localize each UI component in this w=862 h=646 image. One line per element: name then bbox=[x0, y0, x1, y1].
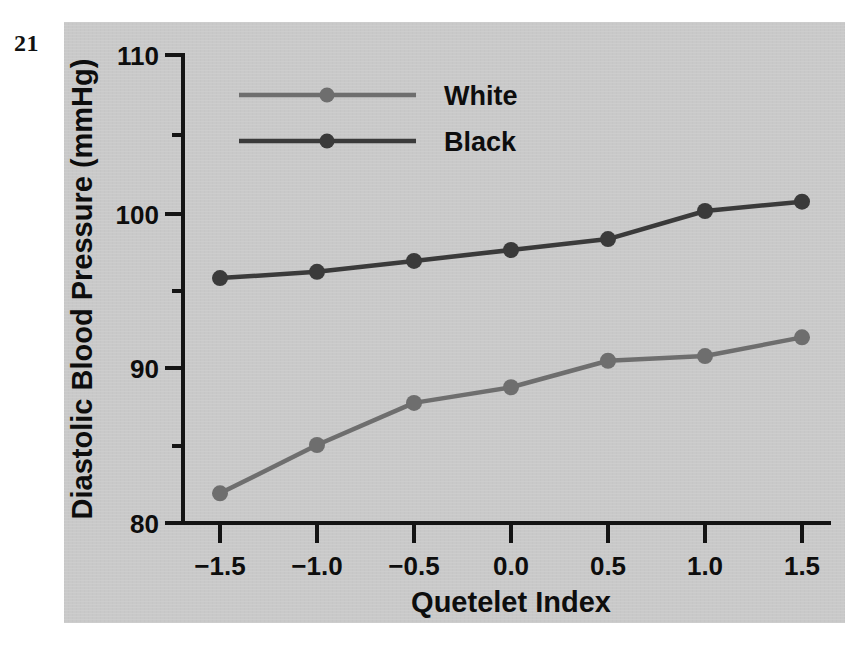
figure-root: 21 110 1 bbox=[0, 0, 862, 646]
data-point-black-3 bbox=[503, 242, 519, 258]
series-line-white bbox=[220, 337, 802, 493]
x-tick-label: 1.5 bbox=[784, 551, 820, 581]
series-line-black bbox=[220, 202, 802, 278]
legend-label-white: White bbox=[444, 81, 518, 111]
data-point-white-5 bbox=[697, 348, 713, 364]
data-point-white-2 bbox=[406, 395, 422, 411]
data-point-white-1 bbox=[309, 437, 325, 453]
y-axis-title: Diastolic Blood Pressure (mmHg) bbox=[66, 59, 98, 520]
x-tick-label: 0.0 bbox=[493, 551, 529, 581]
data-point-white-6 bbox=[794, 329, 810, 345]
x-tick-label: 1.0 bbox=[687, 551, 723, 581]
y-tick-label: 90 bbox=[130, 354, 159, 384]
chart-panel: 110 100 90 80 −1.5 −1.0 −0.5 0.0 bbox=[64, 22, 845, 623]
chart-legend: White Black bbox=[239, 81, 518, 157]
data-point-black-4 bbox=[600, 231, 616, 247]
data-point-white-4 bbox=[600, 353, 616, 369]
y-tick-label: 110 bbox=[117, 41, 159, 71]
figure-number: 21 bbox=[14, 30, 39, 57]
data-point-white-0 bbox=[212, 485, 228, 501]
x-axis-tick-labels: −1.5 −1.0 −0.5 0.0 0.5 1.0 1.5 bbox=[194, 551, 820, 581]
data-point-white-3 bbox=[503, 379, 519, 395]
data-point-black-0 bbox=[212, 270, 228, 286]
x-axis-major-ticks bbox=[220, 523, 802, 543]
x-tick-label: −1.0 bbox=[291, 551, 342, 581]
data-point-black-1 bbox=[309, 264, 325, 280]
data-point-black-5 bbox=[697, 203, 713, 219]
line-chart: 110 100 90 80 −1.5 −1.0 −0.5 0.0 bbox=[64, 22, 845, 623]
legend-marker-white bbox=[320, 88, 335, 103]
x-tick-label: −1.5 bbox=[194, 551, 245, 581]
y-tick-label: 80 bbox=[130, 509, 159, 539]
legend-label-black: Black bbox=[444, 127, 517, 157]
x-tick-label: −0.5 bbox=[388, 551, 439, 581]
data-point-black-6 bbox=[794, 194, 810, 210]
series-layer bbox=[212, 194, 810, 502]
y-axis-tick-labels: 110 100 90 80 bbox=[116, 41, 159, 539]
x-axis-title: Quetelet Index bbox=[411, 586, 611, 618]
y-tick-label: 100 bbox=[116, 200, 159, 230]
x-tick-label: 0.5 bbox=[590, 551, 626, 581]
legend-marker-black bbox=[320, 134, 335, 149]
data-point-black-2 bbox=[406, 253, 422, 269]
axes bbox=[183, 55, 829, 523]
